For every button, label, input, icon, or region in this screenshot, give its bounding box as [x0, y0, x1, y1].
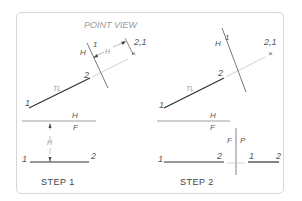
step1-dimension-label-aux: H — [105, 48, 111, 55]
step2-true-length-label: TL — [186, 85, 194, 92]
step1-fold-label-left: H — [80, 48, 86, 57]
step2-fp-left-label: F — [227, 136, 233, 145]
step2-front-point1-label: 1 — [158, 154, 163, 164]
step2-front-point2-label: 2 — [216, 151, 222, 161]
step1-front-point1-label: 1 — [22, 154, 27, 164]
step2-point1-label: 1 — [159, 100, 164, 110]
step1-group: × H 1 H 2,1 2 TL 1 H F H 1 2 STEP 1 — [22, 37, 147, 187]
arrowhead-icon — [49, 123, 52, 128]
step2-group: × H 1 2,1 2 TL 1 H F F P 1 2 1 2 STEP 2 — [157, 28, 281, 187]
step2-profile-point1-label: 1 — [249, 151, 254, 161]
step1-projection-line — [92, 59, 128, 77]
step1-fold-label-right: 1 — [93, 40, 97, 49]
step2-point-view-label: 2,1 — [263, 37, 277, 47]
title-point-view: POINT VIEW — [84, 20, 139, 30]
step2-fp-right-label: P — [240, 136, 246, 145]
step2-hf-top-label: H — [210, 111, 216, 120]
step1-hf-top-label: H — [72, 111, 78, 120]
step2-true-length-line — [164, 78, 224, 108]
step2-profile-point2-label: 2 — [275, 151, 281, 161]
descriptive-geometry-diagram: POINT VIEW × H 1 H 2,1 2 TL 1 H F H — [0, 0, 302, 201]
step2-point2-label: 2 — [217, 68, 223, 78]
step2-fold-label-right: 1 — [225, 33, 229, 42]
step1-dimension-label-front: H — [47, 139, 53, 146]
arrowhead-icon — [93, 54, 98, 58]
step1-hf-bottom-label: F — [73, 123, 79, 132]
step2-point-view-marker-icon: × — [268, 49, 273, 58]
step2-hf-bottom-label: F — [210, 123, 216, 132]
step1-front-point2-label: 2 — [90, 151, 96, 161]
step1-true-length-label: TL — [53, 85, 61, 92]
step1-caption: STEP 1 — [41, 177, 75, 187]
step1-point2-label: 2 — [83, 70, 89, 80]
arrowhead-icon — [49, 157, 52, 162]
step2-projection-line — [226, 57, 265, 77]
arrowhead-icon — [121, 41, 126, 45]
step2-caption: STEP 2 — [180, 177, 214, 187]
step2-fold-label-left: H — [215, 39, 221, 48]
step1-point-view-label: 2,1 — [133, 37, 147, 47]
step1-true-length-line — [29, 78, 90, 108]
step1-point-view-marker-icon: × — [131, 49, 136, 58]
step1-point1-label: 1 — [25, 98, 30, 108]
